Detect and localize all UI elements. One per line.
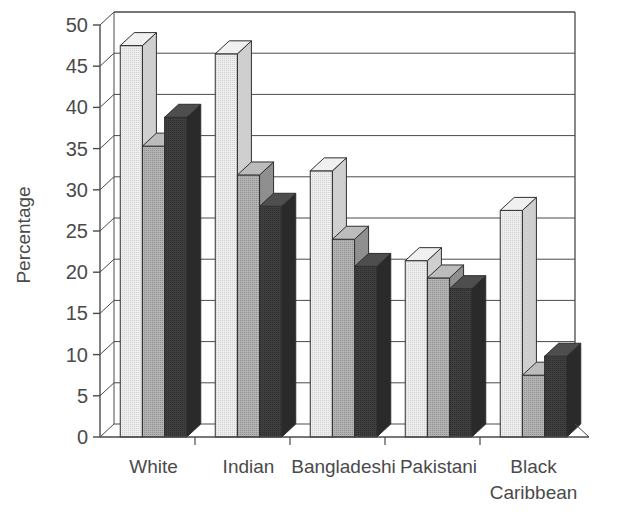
y-tick-labels: 05101520253035404550 [66,14,88,448]
category-label: Bangladeshi [291,456,396,477]
depth-connector [100,300,114,313]
bar-side [472,276,486,437]
bar [355,253,391,437]
bar-front [332,239,354,437]
depth-connector [100,259,114,272]
depth-connector [100,53,114,66]
bar-front [215,54,237,437]
y-tick-label: 0 [77,426,88,448]
bar [165,104,201,437]
bar-front [545,356,567,437]
category-label: White [129,456,178,477]
bar [545,343,581,437]
bar-front [120,46,142,437]
y-tick-label: 40 [66,96,88,118]
depth-connector [100,424,114,437]
bar-front [522,375,544,437]
bar-side [377,253,391,437]
depth-connector [100,136,114,149]
bar-chart: 05101520253035404550 WhiteIndianBanglade… [0,0,629,515]
y-tick-label: 50 [66,14,88,36]
bar [450,276,486,437]
chart-canvas: 05101520253035404550 WhiteIndianBanglade… [0,0,629,515]
y-tick-label: 20 [66,261,88,283]
y-tick-label: 45 [66,55,88,77]
depth-connector [100,12,114,25]
bar-front [500,210,522,437]
bar-side [187,104,201,437]
y-tick-label: 15 [66,302,88,324]
bar-front [355,266,377,437]
depth-connector [100,383,114,396]
y-tick-label: 5 [77,385,88,407]
category-label: Indian [223,456,275,477]
bar-front [142,146,164,437]
depth-connector [100,342,114,355]
y-tick-label: 25 [66,220,88,242]
bar-front [260,206,282,437]
y-axis-title: Percentage [13,186,34,283]
bar-front [405,261,427,437]
category-labels: WhiteIndianBangladeshiPakistaniBlackCari… [129,456,577,503]
bar-front [237,175,259,437]
category-label: Pakistani [400,456,477,477]
bar [260,193,296,437]
depth-connector [100,94,114,107]
y-tick-label: 30 [66,179,88,201]
bar-front [450,289,472,437]
category-label: Black [510,456,557,477]
y-tick-label: 35 [66,138,88,160]
floor-edge [575,424,589,437]
bar-front [165,117,187,437]
axis-frame [93,12,114,437]
bar-side [282,193,296,437]
bars-layer [120,33,581,437]
bar-front [310,171,332,437]
depth-connector [100,177,114,190]
y-tick-label: 10 [66,344,88,366]
category-label: Caribbean [490,482,578,503]
bar-front [427,278,449,437]
depth-connector [100,218,114,231]
bar-side [567,343,581,437]
